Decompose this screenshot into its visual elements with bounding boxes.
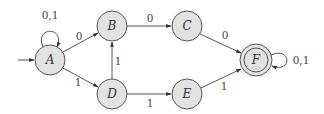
state-diagram: 0,1 0 1 1 0 1 0 1 0,1 A B C D E	[0, 0, 324, 114]
state-b: B	[97, 11, 127, 41]
loop-a-label: 0,1	[42, 9, 59, 21]
edge-a-d-label: 1	[75, 76, 82, 88]
edge-c-f-label: 0	[222, 29, 229, 41]
edge-a-b-label: 0	[76, 30, 83, 42]
state-a-label: A	[45, 53, 55, 67]
state-f-accept: F	[240, 44, 272, 76]
edge-c-f	[200, 34, 241, 53]
state-f-label: F	[251, 53, 261, 67]
state-e-label: E	[182, 87, 192, 101]
state-a: A	[35, 45, 65, 75]
state-c-label: C	[182, 19, 191, 33]
state-e: E	[172, 79, 202, 109]
edge-d-b-label: 1	[115, 55, 122, 67]
loop-f-label: 0,1	[293, 54, 310, 66]
state-b-label: B	[107, 19, 117, 33]
state-d-label: D	[106, 87, 117, 101]
edge-b-c-label: 0	[147, 12, 154, 24]
loop-f	[271, 53, 287, 67]
state-c: C	[172, 11, 202, 41]
state-d: D	[97, 79, 127, 109]
edge-e-f-label: 1	[221, 80, 228, 92]
edge-d-e-label: 1	[147, 97, 154, 109]
